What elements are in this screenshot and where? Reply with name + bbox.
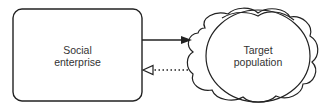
target-population-label-line2: population [218,56,298,68]
social-enterprise-label: Social enterprise [13,44,142,68]
social-enterprise-label-line1: Social [13,44,142,56]
social-enterprise-label-line2: enterprise [13,56,142,68]
target-population-label: Target population [218,44,298,68]
hollow-arrowhead-icon [143,66,153,75]
target-population-label-line1: Target [218,44,298,56]
